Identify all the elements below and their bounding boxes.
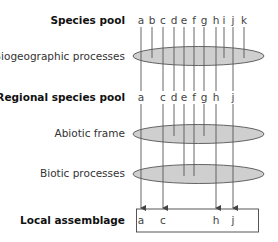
species-letter-h: h — [213, 14, 220, 26]
community-assembly-diagram: Species pool Biogeographic processes Reg… — [0, 0, 278, 242]
species-letter-e: e — [181, 14, 187, 26]
local-assemblage-label: Local assemblage — [20, 214, 125, 226]
species-letter-g: g — [201, 14, 208, 26]
biotic-processes-label: Biotic processes — [40, 167, 125, 179]
regional-letter-f: f — [192, 91, 196, 103]
regional-letter-g: g — [201, 91, 208, 103]
regional-letter-j: j — [231, 91, 235, 103]
species-letter-b: b — [149, 14, 156, 26]
regional-letter-c: c — [160, 91, 166, 103]
regional-letter-a: a — [138, 91, 144, 103]
local-letter-h: h — [213, 214, 220, 226]
species-letter-c: c — [160, 14, 166, 26]
biogeographic-processes-label: Biogeographic processes — [0, 50, 125, 62]
regional-letter-h: h — [213, 91, 220, 103]
species-letter-a: a — [138, 14, 144, 26]
local-letter-j: j — [231, 214, 235, 226]
regional-species-pool-label: Regional species pool — [0, 91, 125, 103]
species-letter-d: d — [171, 14, 178, 26]
abiotic-filter-ellipse — [133, 125, 264, 144]
abiotic-frame-label: Abiotic frame — [55, 127, 125, 139]
species-pool-letters: abcdefghijk — [138, 14, 248, 26]
local-letter-a: a — [138, 214, 144, 226]
regional-letter-e: e — [181, 91, 187, 103]
species-pool-label: Species pool — [50, 14, 125, 26]
local-letter-c: c — [160, 214, 166, 226]
species-letter-f: f — [192, 14, 196, 26]
local-assemblage-box — [137, 209, 259, 232]
biotic-filter-ellipse — [133, 165, 264, 184]
regional-pool-letters: acdefghj — [138, 91, 235, 103]
species-letter-k: k — [241, 14, 248, 26]
species-letter-i: i — [223, 14, 226, 26]
species-letter-j: j — [231, 14, 235, 26]
regional-letter-d: d — [171, 91, 178, 103]
